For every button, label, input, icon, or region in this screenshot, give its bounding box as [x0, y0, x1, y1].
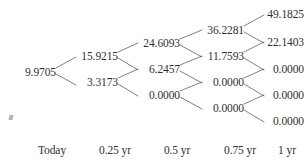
- lattice-node-c3-r0: 36.2281: [180, 24, 244, 36]
- lattice-node-c0-r0: 9.9705: [0, 66, 56, 78]
- lattice-node-c4-r4: 0.0000: [244, 115, 304, 127]
- lattice-connector-lines: [0, 0, 306, 166]
- axis-label-0-5yr: 0.5 yr: [147, 144, 207, 157]
- lattice-node-c4-r0: 49.1825: [244, 8, 304, 20]
- lattice-node-c2-r0: 24.6093: [118, 37, 180, 49]
- axis-label-1yr: 1 yr: [270, 144, 304, 157]
- lattice-node-c2-r2: 0.0000: [118, 89, 180, 101]
- lattice-node-c4-r2: 0.0000: [244, 63, 304, 75]
- lattice-node-c1-r0: 15.9215: [56, 50, 118, 62]
- axis-label-0-75yr: 0.75 yr: [209, 144, 271, 157]
- axis-label-today: Today: [22, 144, 82, 157]
- binomial-lattice-figure: 9.9705 15.9215 3.3173 24.6093 6.2457 0.0…: [0, 0, 306, 166]
- lattice-node-c3-r2: 0.0000: [180, 76, 244, 88]
- lattice-node-c4-r3: 0.0000: [244, 89, 304, 101]
- lattice-node-c4-r1: 22.1403: [244, 36, 304, 48]
- lattice-node-c2-r1: 6.2457: [118, 63, 180, 75]
- lattice-node-c3-r3: 0.0000: [180, 102, 244, 114]
- axis-label-0-25yr: 0.25 yr: [84, 144, 146, 157]
- lattice-node-c1-r1: 3.3173: [56, 76, 118, 88]
- lattice-node-c3-r1: 11.7593: [180, 50, 244, 62]
